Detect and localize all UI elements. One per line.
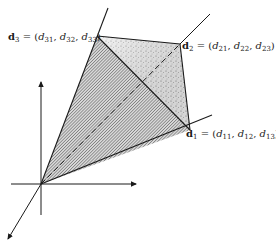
vector-cone-diagram: d3 = (d31, d32, d33) d2 = (d21, d22, d23… xyxy=(0,0,276,246)
depth-axis xyxy=(8,184,41,239)
label-d3: d3 = (d31, d32, d33) xyxy=(8,31,101,43)
label-d1: d1 = (d11, d12, d13) xyxy=(186,128,276,140)
label-d2: d2 = (d21, d22, d23) xyxy=(182,40,275,52)
